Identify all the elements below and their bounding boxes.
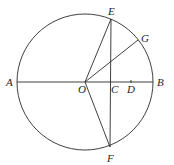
- point-label-c: C: [111, 83, 119, 95]
- segment-of: [85, 82, 110, 147]
- point-label-o: O: [78, 83, 86, 95]
- point-label-b: B: [157, 76, 164, 88]
- geometry-diagram: ABOCDEFG: [0, 0, 174, 165]
- point-label-g: G: [141, 32, 149, 44]
- segment-og: [85, 40, 138, 82]
- point-label-e: E: [107, 5, 115, 17]
- point-label-d: D: [126, 83, 135, 95]
- point-label-a: A: [5, 76, 13, 88]
- point-label-f: F: [106, 152, 114, 164]
- point-labels: ABOCDEFG: [5, 5, 164, 164]
- segment-oe: [85, 19, 111, 82]
